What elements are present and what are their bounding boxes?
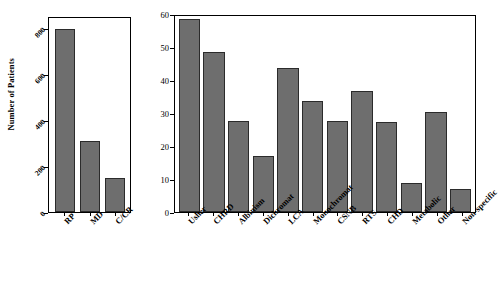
- bar-slot: [77, 18, 102, 212]
- bar-slot: [350, 16, 375, 212]
- bar[interactable]: [228, 121, 249, 212]
- bar-slot: [226, 16, 251, 212]
- bar[interactable]: [179, 19, 200, 212]
- bar-slot: [300, 16, 325, 212]
- bar-slot: [424, 16, 449, 212]
- bar[interactable]: [105, 178, 125, 212]
- y-tick-label: 0: [11, 209, 47, 245]
- bar[interactable]: [203, 52, 224, 212]
- y-tick-mark: [170, 147, 174, 148]
- y-tick-label: 20: [146, 142, 169, 152]
- bar-slot: [177, 16, 202, 212]
- bar-slot: [251, 16, 276, 212]
- bar[interactable]: [55, 29, 75, 212]
- y-tick-mark: [170, 48, 174, 49]
- bar-slot: [276, 16, 301, 212]
- plot-area-right: [174, 15, 476, 213]
- bar-slot: [399, 16, 424, 212]
- y-tick-mark: [170, 180, 174, 181]
- bar-series-left: [49, 18, 130, 212]
- y-tick-label: 50: [146, 43, 169, 53]
- chart-panel-right: 0102030405060 UsherCHRDAlbinismDichromat…: [143, 0, 489, 285]
- y-tick-mark: [170, 81, 174, 82]
- bar-slot: [374, 16, 399, 212]
- y-tick-label: 800: [11, 25, 47, 61]
- plot-area-left: [48, 17, 131, 213]
- y-tick-label: 10: [146, 175, 169, 185]
- y-tick-mark: [170, 213, 174, 214]
- bar-slot: [52, 18, 77, 212]
- y-axis-title-left: Number of Patients: [6, 58, 16, 130]
- bar-slot: [202, 16, 227, 212]
- bar-slot: [448, 16, 473, 212]
- bar[interactable]: [302, 101, 323, 212]
- y-tick-mark: [170, 114, 174, 115]
- bar[interactable]: [80, 141, 100, 212]
- bar-series-right: [175, 16, 475, 212]
- y-tick-mark: [170, 15, 174, 16]
- y-tick-label: 0: [146, 208, 169, 218]
- chart-panel-left: Number of Patients 0200400600800 RPMDC/C…: [0, 0, 143, 285]
- bar[interactable]: [376, 122, 397, 212]
- bar-slot: [102, 18, 127, 212]
- y-tick-label: 40: [146, 76, 169, 86]
- y-tick-label: 600: [11, 71, 47, 107]
- y-tick-label: 30: [146, 109, 169, 119]
- bar[interactable]: [351, 91, 372, 212]
- y-tick-label: 200: [11, 163, 47, 199]
- y-tick-label: 400: [11, 117, 47, 153]
- y-tick-label: 60: [146, 10, 169, 20]
- bar[interactable]: [401, 183, 422, 212]
